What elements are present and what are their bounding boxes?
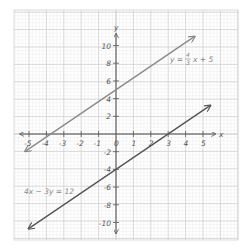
x-tick-label: -5 xyxy=(24,139,32,148)
coordinate-plane: -5-4-3-2-1012345108642-2-4-6-8-10 x y y … xyxy=(0,0,243,249)
x-tick-label: -2 xyxy=(76,139,84,148)
x-tick-label: 1 xyxy=(131,139,136,148)
x-axis-label: x xyxy=(218,130,224,139)
x-tick-label: -1 xyxy=(94,139,101,148)
y-tick-label: 8 xyxy=(106,59,111,68)
x-tick-label: 3 xyxy=(166,139,171,148)
grid xyxy=(14,10,238,240)
y-tick-label: -4 xyxy=(104,165,112,174)
eq1-denominator: 3 xyxy=(186,59,190,66)
equation-label-line2: 4x − 3y = 12 xyxy=(24,187,74,196)
y-tick-label: -8 xyxy=(104,201,112,210)
y-tick-label: -6 xyxy=(104,183,112,192)
y-tick-label: 2 xyxy=(106,112,111,121)
y-axis-label: y xyxy=(113,23,119,32)
x-tick-label: 5 xyxy=(201,139,206,148)
equation-label-line1: y = 4 3 x + 5 xyxy=(169,51,213,66)
x-tick-label: 4 xyxy=(184,139,189,148)
x-tick-label: -4 xyxy=(41,139,49,148)
y-tick-label: 6 xyxy=(106,77,111,86)
y-tick-label: -10 xyxy=(99,219,111,228)
x-tick-label: 0 xyxy=(114,139,119,148)
eq1-suffix: x + 5 xyxy=(192,55,213,64)
eq1-prefix: y = xyxy=(169,55,183,64)
x-tick-label: 2 xyxy=(149,139,154,148)
y-tick-label: -2 xyxy=(104,148,112,157)
eq1-numerator: 4 xyxy=(186,51,190,58)
x-tick-label: -3 xyxy=(59,139,67,148)
y-tick-label: 10 xyxy=(101,42,111,51)
y-tick-label: 4 xyxy=(106,95,111,104)
